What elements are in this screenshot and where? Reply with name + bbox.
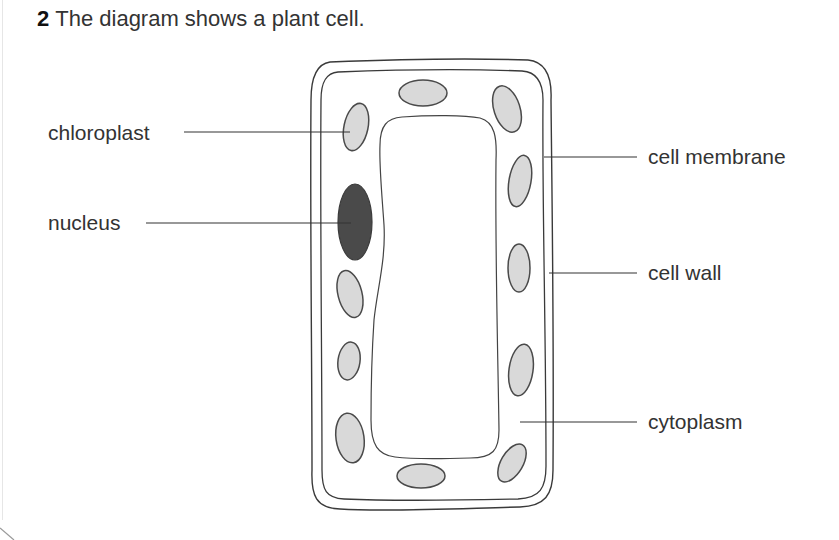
chloroplast-bottom-right: [492, 439, 532, 486]
chloroplast-top-right: [487, 82, 527, 136]
chloroplast-left-2: [333, 268, 368, 320]
label-nucleus: nucleus: [48, 211, 120, 235]
chloroplast-left-top: [339, 101, 372, 153]
chloroplast-right-3: [505, 343, 536, 398]
vacuole-outline: [371, 116, 499, 459]
nucleus: [338, 184, 372, 260]
chloroplast-left-4: [333, 411, 368, 464]
chloroplast-right-1: [505, 153, 536, 208]
chloroplast-bottom: [397, 464, 445, 488]
label-chloroplast: chloroplast: [48, 121, 150, 145]
chloroplasts: [333, 80, 537, 488]
chloroplast-top: [399, 80, 447, 106]
label-cytoplasm: cytoplasm: [648, 410, 743, 434]
leader-lines: [146, 132, 637, 422]
page-corner-line: [0, 528, 14, 540]
chloroplast-left-3: [335, 341, 362, 382]
chloroplast-right-2: [508, 244, 530, 292]
label-cell-wall: cell wall: [648, 261, 722, 285]
label-cell-membrane: cell membrane: [648, 145, 786, 169]
